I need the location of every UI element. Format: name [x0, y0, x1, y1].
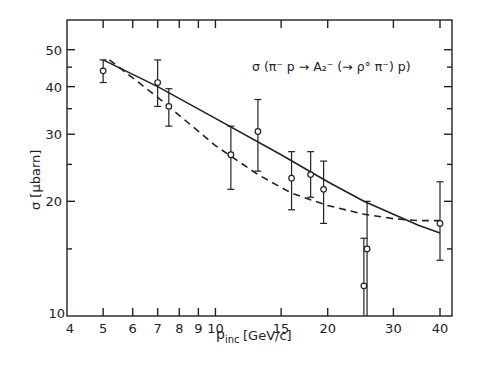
y-tick-label: 50: [45, 43, 62, 58]
x-tick-label: 4: [66, 321, 74, 336]
x-tick-label: 8: [175, 321, 183, 336]
y-tick-label: 40: [45, 80, 62, 95]
data-point: [364, 201, 371, 316]
y-tick-label: 20: [45, 194, 62, 209]
x-label-sub: inc: [225, 334, 240, 345]
data-point: [254, 100, 261, 172]
x-tick-label: 5: [99, 321, 107, 336]
data-point: [320, 161, 327, 223]
data-points: [100, 60, 444, 316]
fit-curves: [103, 60, 440, 233]
x-label-main: p: [216, 326, 225, 342]
x-tick-label: 9: [194, 321, 202, 336]
data-point: [307, 152, 314, 198]
y-axis: 1020304050: [45, 43, 452, 321]
y-tick-label: 10: [48, 306, 65, 321]
data-point: [100, 60, 107, 83]
chart-annotation: σ (π⁻ p → A₂⁻ (→ ρ° π⁻) p): [252, 59, 411, 74]
x-tick-label: 20: [319, 321, 336, 336]
x-tick-label: 30: [385, 321, 402, 336]
data-point: [437, 182, 444, 261]
data-point: [288, 152, 295, 210]
x-tick-label: 7: [154, 321, 162, 336]
fit-solid-curve: [103, 60, 440, 233]
cross-section-chart: 4567891015203040 1020304050 σ (π⁻ p → A₂…: [0, 0, 480, 366]
x-axis-label: p inc [GeV/c]: [216, 326, 292, 345]
x-tick-label: 40: [432, 321, 449, 336]
x-tick-label: 6: [129, 321, 137, 336]
y-axis-label: σ [μbarn]: [28, 150, 43, 210]
x-label-unit: [GeV/c]: [243, 328, 292, 343]
y-tick-label: 30: [45, 127, 62, 142]
